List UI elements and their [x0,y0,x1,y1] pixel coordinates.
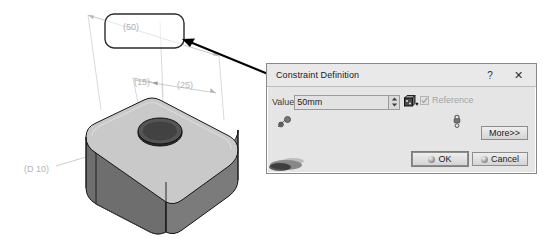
3d-model-viewport[interactable]: (50) (15) (25) (D 10) [0,0,280,238]
constraint-type-icon [277,114,292,132]
offset-dimension-label[interactable]: (15) [134,77,150,87]
through-hole[interactable] [138,118,182,146]
reference-label: Reference [432,95,474,105]
screenshot-root: (50) (15) (25) (D 10) Constraint Definit… [0,0,543,238]
diameter-dimension-label[interactable]: (D 10) [24,164,49,174]
render-artifact [269,149,315,171]
value-row: Value [272,94,419,110]
constraint-definition-dialog[interactable]: Constraint Definition ? ✕ Value [266,63,537,174]
cancel-button-label: Cancel [491,154,519,164]
value-input[interactable] [294,95,389,110]
ok-button-label: OK [438,154,451,164]
selected-dimension-highlight[interactable] [105,14,184,48]
stepper-down-icon[interactable] [389,102,399,109]
cad-scene: (50) (15) (25) (D 10) [0,0,280,238]
help-icon[interactable]: ? [482,67,498,83]
ok-button-icon [428,156,435,163]
value-label: Value [272,97,294,107]
value-stepper[interactable] [389,95,400,110]
reference-checkbox[interactable] [420,96,429,105]
cancel-button[interactable]: Cancel [472,152,528,166]
close-icon[interactable]: ✕ [510,67,526,83]
dialog-title: Constraint Definition [276,70,359,80]
formula-icon[interactable] [402,94,419,111]
reference-group[interactable]: Reference [420,95,474,105]
cancel-button-icon [481,156,488,163]
callout-arrow [182,39,268,75]
width-dimension-label[interactable]: (25) [177,80,193,90]
more-button[interactable]: More>> [481,126,528,140]
rounded-rectangular-block[interactable] [86,98,238,234]
length-dimension-label[interactable]: (50) [123,22,139,32]
ok-button[interactable]: OK [412,152,468,166]
lock-icon [453,114,461,132]
diameter-leader-line[interactable] [56,157,86,166]
